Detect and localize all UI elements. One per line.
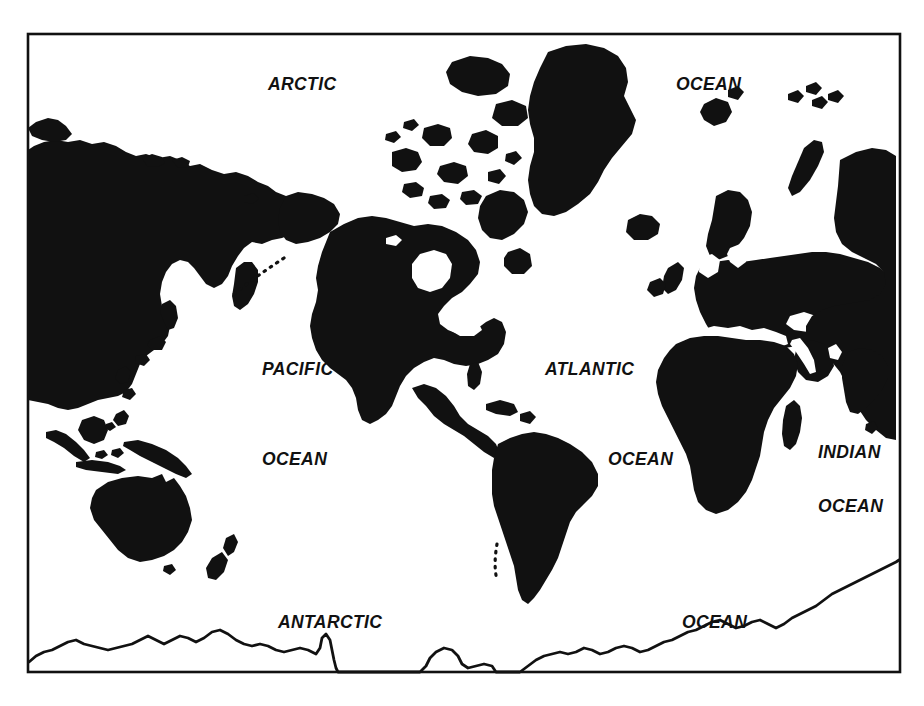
label-atlantic: ATLANTIC [544, 359, 634, 379]
label-southern-ocean: OCEAN [682, 612, 747, 632]
label-atlantic-ocean: OCEAN [608, 449, 673, 469]
label-arctic: ARCTIC [267, 74, 337, 94]
label-indian-ocean: OCEAN [818, 496, 883, 516]
world-map: ARCTIC OCEAN PACIFIC OCEAN ATLANTIC OCEA… [0, 0, 924, 706]
map-canvas: ARCTIC OCEAN PACIFIC OCEAN ATLANTIC OCEA… [0, 0, 924, 706]
label-antarctic: ANTARCTIC [277, 612, 382, 632]
label-arctic-ocean: OCEAN [676, 74, 741, 94]
label-indian: INDIAN [818, 442, 881, 462]
label-pacific-ocean: OCEAN [262, 449, 327, 469]
label-pacific: PACIFIC [262, 359, 334, 379]
